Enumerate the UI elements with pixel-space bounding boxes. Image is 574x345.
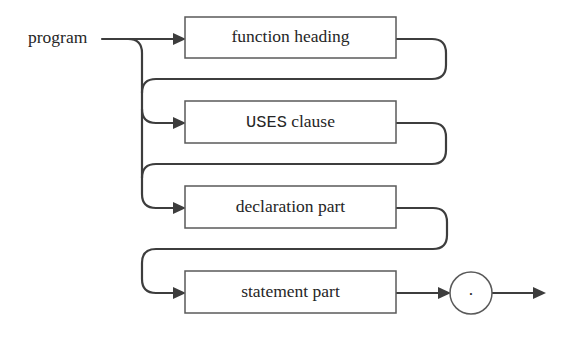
node-label: statement part [241,281,340,301]
syntax-diagram: program function heading USES clause dec… [0,0,574,345]
node-function-heading: function heading [185,17,396,58]
keyword-uses: USES [246,113,287,132]
terminal-period: . [450,272,492,314]
node-label: USES clause [246,111,335,132]
arrow-icon [173,117,186,129]
program-label: program [28,27,88,47]
arrow-icon [533,287,546,299]
node-label-rest: clause [287,111,335,131]
node-label: function heading [231,26,349,46]
node-declaration-part: declaration part [185,186,396,228]
arrow-icon [173,33,186,45]
arrow-icon [173,287,186,299]
branch-line-uses [142,109,175,123]
node-uses-clause: USES clause [185,101,396,143]
node-label: declaration part [236,196,345,216]
node-statement-part: statement part [185,271,396,313]
arrow-icon [173,202,186,214]
terminal-symbol: . [469,279,473,299]
arrow-icon [438,287,451,299]
